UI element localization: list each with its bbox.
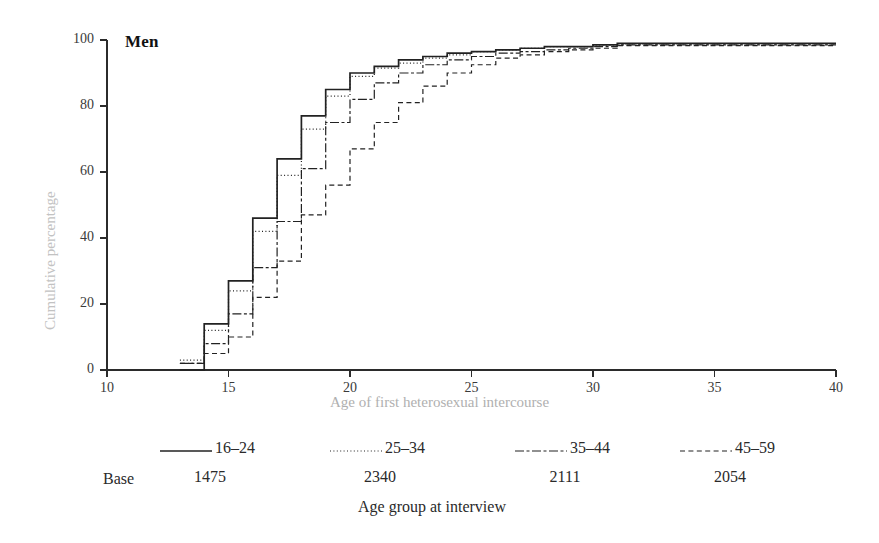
chart-axes	[100, 40, 836, 377]
series-line-16-24	[180, 43, 836, 370]
series-line-35-44	[180, 45, 836, 363]
series-line-45-59	[180, 46, 836, 364]
legend-label-35-44: 35–44	[570, 439, 610, 457]
legend-base-word: Base	[103, 470, 134, 488]
legend-label-25-34: 25–34	[385, 439, 425, 457]
legend-base-16-24: 1475	[170, 468, 250, 486]
chart-series-group	[180, 43, 836, 370]
legend-label-16-24: 16–24	[215, 439, 255, 457]
chart-plot-area	[0, 0, 879, 543]
legend-label-45-59: 45–59	[735, 439, 775, 457]
legend-caption: Age group at interview	[358, 498, 506, 516]
series-line-25-34	[180, 44, 836, 360]
chart-figure: Men Cumulative percentage Age of first h…	[0, 0, 879, 543]
legend-base-45-59: 2054	[690, 468, 770, 486]
legend-base-25-34: 2340	[340, 468, 420, 486]
legend-base-35-44: 2111	[525, 468, 605, 486]
